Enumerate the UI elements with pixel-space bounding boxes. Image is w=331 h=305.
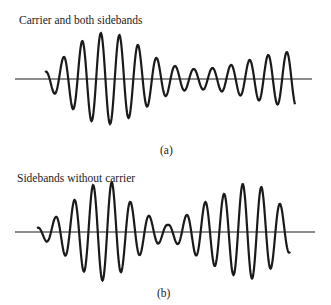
figure-b-caption: (b) bbox=[157, 287, 170, 299]
figure-b-title: Sidebands without carrier bbox=[17, 172, 135, 184]
figure-a-caption: (a) bbox=[160, 144, 173, 156]
